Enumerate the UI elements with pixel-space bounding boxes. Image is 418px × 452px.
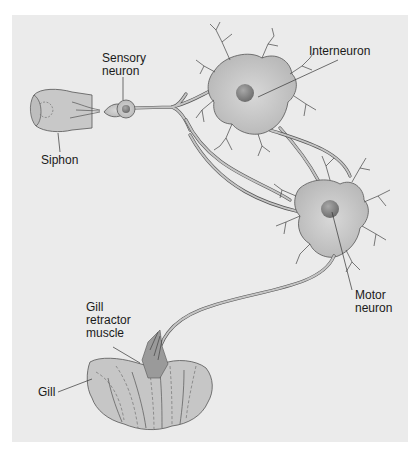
label-motor-neuron: Motor neuron (355, 289, 392, 315)
interneuron-shape (196, 22, 338, 156)
label-sensory-neuron: Sensory neuron (102, 52, 146, 78)
siphon-shape (30, 89, 100, 131)
motor-neuron-shape (156, 156, 390, 362)
siphon-leader-line (58, 133, 60, 152)
label-siphon: Siphon (41, 154, 78, 167)
label-gill-retractor-muscle: Gill retractor muscle (86, 301, 131, 340)
neural-circuit-diagram (0, 0, 418, 452)
label-gill: Gill (38, 386, 55, 399)
gill-shape (58, 330, 212, 430)
sensory-neuron-shape (104, 77, 208, 130)
label-interneuron: Interneuron (309, 45, 370, 58)
